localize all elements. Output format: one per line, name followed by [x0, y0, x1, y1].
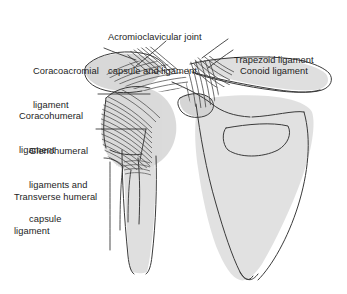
label-transverse-humeral: Transverse humeral ligament	[14, 169, 97, 260]
scapula-body-fill	[195, 95, 313, 280]
label-acromioclavicular: Acromioclavicular joint capsule and liga…	[108, 9, 202, 100]
label-coracoacromial-line1: Coracoacromial	[33, 66, 99, 77]
shoulder-ligament-diagram: Acromioclavicular joint capsule and liga…	[0, 0, 347, 294]
label-acromioclavicular-line2: capsule and ligament	[108, 66, 202, 77]
label-coracohumeral-line1: Coracohumeral	[19, 111, 83, 122]
label-acromioclavicular-line1: Acromioclavicular joint	[108, 32, 202, 43]
label-glenohumeral-line1: Glenohumeral	[29, 146, 88, 157]
leader-trapezoid	[202, 39, 228, 58]
label-conoid: Conoid ligament	[240, 43, 308, 100]
label-transverse-humeral-line1: Transverse humeral	[14, 192, 97, 203]
label-conoid-line1: Conoid ligament	[240, 66, 308, 77]
label-transverse-humeral-line2: ligament	[14, 226, 97, 237]
